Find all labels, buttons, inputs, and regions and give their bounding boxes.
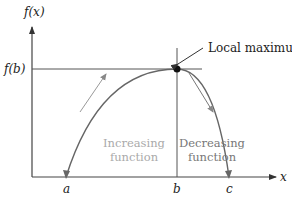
decreasing-label-line1: Decreasing [179,136,246,150]
x-axis-label: x [280,170,287,184]
tick-label-a: a [63,182,70,196]
y-axis-label: f(x) [23,5,45,19]
fb-label: f(b) [3,62,26,76]
increasing-label-line2: function [110,150,159,164]
decreasing-label-line2: function [188,150,237,164]
increasing-label-line1: Increasing [103,136,166,150]
annotation-arrow [178,48,203,64]
local-maximum-diagram: f(x) x f(b) Local maximum a b c Increasi… [0,0,292,200]
tick-label-b: b [173,182,181,196]
local-maximum-point [174,66,181,73]
decreasing-arrow-icon [189,73,213,112]
curve-arrow-left-icon [63,170,70,179]
local-maximum-label: Local maximum [208,41,292,55]
curve-arrow-right-icon [225,170,232,179]
tick-label-c: c [226,182,233,196]
